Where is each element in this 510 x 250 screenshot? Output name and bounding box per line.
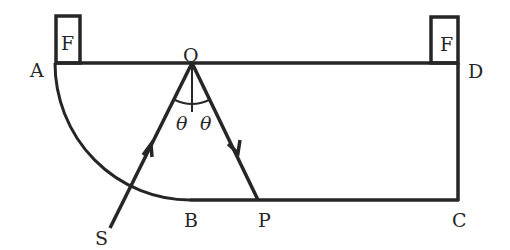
label-a: A	[29, 59, 44, 81]
label-right-f: F	[440, 33, 453, 55]
label-p: P	[258, 209, 271, 231]
label-theta-left: θ	[176, 112, 188, 134]
label-d: D	[468, 60, 483, 82]
label-o: O	[183, 44, 199, 66]
label-b: B	[184, 209, 198, 231]
curved-surface-ab	[55, 63, 190, 200]
label-c: C	[452, 209, 467, 231]
label-theta-right: θ	[200, 112, 212, 134]
optics-diagram: F F A D O θ θ B P C S	[0, 0, 510, 250]
label-left-f: F	[61, 32, 74, 54]
label-s: S	[95, 227, 108, 249]
